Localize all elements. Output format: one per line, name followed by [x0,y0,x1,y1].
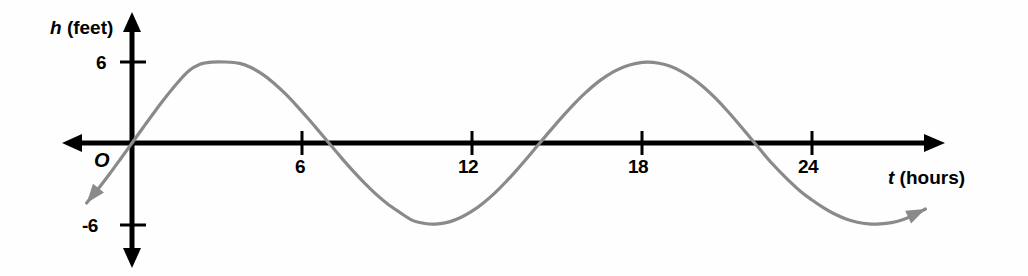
y-axis-bottom-arrowhead [123,248,141,268]
y-axis-top-arrowhead [123,12,141,32]
tide-graph-figure: h (feet) t (hours) O 6 -6 6 12 18 24 [0,0,1028,276]
origin-label: O [94,150,110,170]
y-axis-title: h (feet) [50,18,113,37]
x-axis-left-arrowhead [62,134,82,152]
x-tick-label-12: 12 [458,157,478,176]
x-axis-unit: (hours) [900,167,965,188]
coordinate-plane [0,0,1028,276]
y-axis-variable: h [50,17,62,38]
x-axis-variable: t [888,167,894,188]
y-tick-label-6: 6 [96,53,106,72]
x-tick-label-24: 24 [798,157,818,176]
x-axis-right-arrowhead [924,134,945,152]
x-tick-label-6: 6 [295,157,305,176]
x-axis-title: t (hours) [888,168,965,187]
y-tick-label-minus-6: -6 [82,216,98,235]
curve-end-arrowhead [905,209,925,223]
x-tick-label-18: 18 [628,157,648,176]
y-axis [123,12,141,268]
y-axis-unit: (feet) [67,17,113,38]
